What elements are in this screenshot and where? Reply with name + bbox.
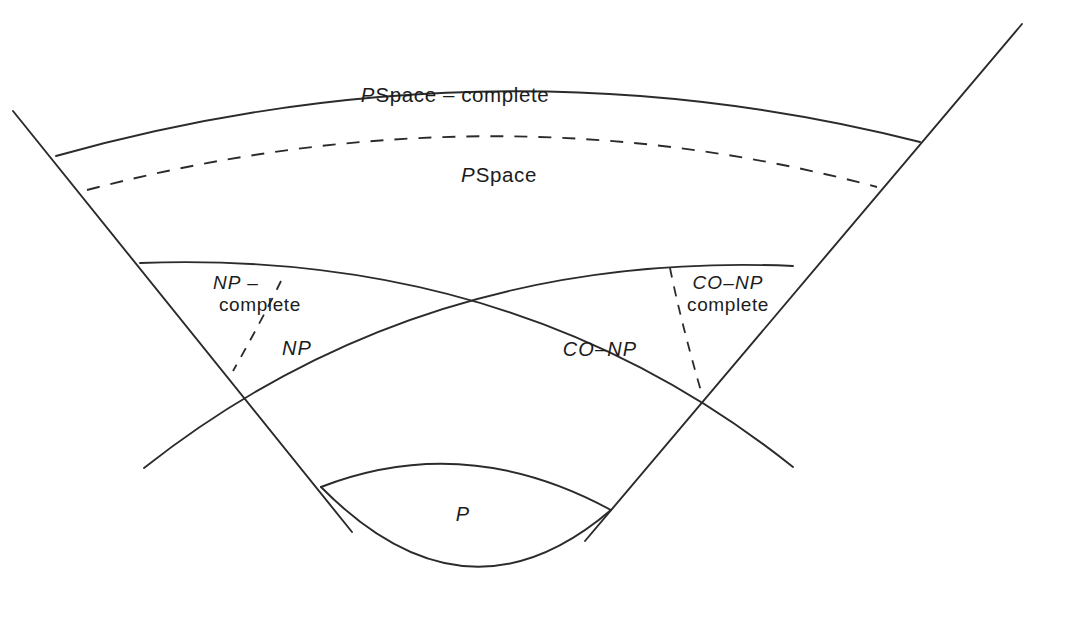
label-co-np-italic: CO–NP — [563, 338, 637, 360]
label-pspace-italic: P — [461, 163, 476, 186]
complexity-diagram: PSpace – complete PSpace NP – complete N… — [0, 0, 1073, 619]
label-co-np-complete: CO–NP complete — [687, 272, 769, 317]
cone-right-edge — [585, 24, 1022, 541]
label-pspace-complete-italic: P — [361, 83, 376, 106]
cone-left-edge — [13, 111, 352, 532]
label-pspace-complete: PSpace – complete — [361, 83, 549, 107]
label-co-np: CO–NP — [563, 338, 637, 362]
label-p: P — [456, 503, 470, 527]
label-pspace-upright: Space — [476, 163, 537, 186]
label-pspace: PSpace — [461, 163, 537, 187]
label-p-italic: P — [456, 503, 470, 525]
label-co-np-complete-line1: CO–NP — [693, 272, 764, 293]
label-np-complete: NP – complete — [213, 272, 301, 317]
label-np-italic: NP — [282, 337, 312, 359]
label-np: NP — [282, 337, 312, 361]
label-co-np-complete-line2: complete — [687, 294, 769, 316]
p-region-lower-arc — [321, 487, 611, 567]
label-np-complete-line1: NP – — [213, 272, 259, 293]
label-np-complete-line2: complete — [219, 294, 301, 316]
label-pspace-complete-upright: Space – complete — [376, 83, 550, 106]
